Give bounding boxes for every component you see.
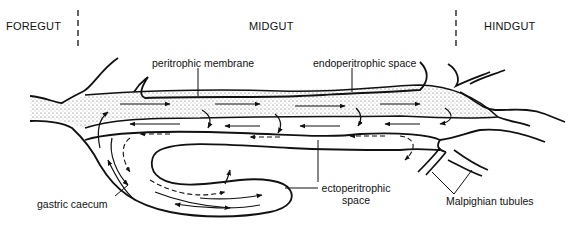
malpighian-tubules-pointer (432, 170, 472, 194)
region-label-midgut: MIDGUT (249, 20, 294, 32)
label-ectoperitrophic-line1: ectoperitrophic (316, 182, 396, 194)
region-label-foregut: FOREGUT (6, 20, 61, 32)
label-ectoperitrophic-space: ectoperitrophic space (316, 182, 396, 206)
label-ectoperitrophic-line2: space (316, 194, 396, 206)
label-endoperitrophic-space: endoperitrophic space (313, 57, 416, 69)
malpighian-tubules (418, 148, 488, 176)
label-malpighian-tubules: Malpighian tubules (446, 195, 534, 207)
ectoperitrophic-flow-arrows (130, 124, 420, 126)
label-gastric-caecum: gastric caecum (37, 198, 108, 210)
region-label-hindgut: HINDGUT (484, 20, 536, 32)
label-peritrophic-membrane: peritrophic membrane (152, 57, 254, 69)
